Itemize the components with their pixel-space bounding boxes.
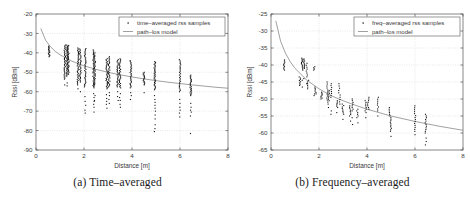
- sample-point: [85, 58, 86, 59]
- sample-point: [108, 73, 109, 74]
- sample-point: [326, 98, 327, 99]
- y-tick-label: -60: [259, 129, 269, 136]
- sample-point: [66, 75, 67, 76]
- sample-point: [65, 56, 66, 57]
- sample-point-outlier: [84, 96, 85, 97]
- sample-point: [119, 70, 120, 71]
- sample-point-outlier: [302, 87, 303, 88]
- sample-point: [78, 78, 79, 79]
- sample-point: [120, 85, 121, 86]
- y-axis-title: Rssi [dBm]: [246, 66, 254, 97]
- sample-point: [391, 128, 392, 129]
- sample-point-outlier: [425, 144, 426, 145]
- sample-point: [307, 74, 308, 75]
- sample-point: [64, 76, 65, 77]
- sample-point: [377, 108, 378, 109]
- sample-point: [66, 73, 67, 74]
- sample-point: [342, 108, 343, 109]
- sample-point: [106, 79, 107, 80]
- sample-point: [306, 67, 307, 68]
- sample-point: [85, 83, 86, 84]
- sample-point: [106, 60, 107, 61]
- sample-point: [68, 69, 69, 70]
- y-tick-label: -80: [24, 127, 34, 134]
- sample-point: [131, 86, 132, 87]
- sample-point: [377, 99, 378, 100]
- sample-point: [301, 64, 302, 65]
- sample-point: [80, 70, 81, 71]
- sample-point: [81, 72, 82, 73]
- x-tick-label: 0: [34, 152, 38, 159]
- sample-point: [117, 86, 118, 87]
- sample-point: [107, 72, 108, 73]
- sample-point: [315, 89, 316, 90]
- sample-point: [80, 58, 81, 59]
- legend-marker-dot: [363, 22, 364, 23]
- sample-point: [67, 63, 68, 64]
- sample-point: [79, 75, 80, 76]
- sample-point-outlier: [414, 134, 415, 135]
- sample-point: [64, 75, 65, 76]
- sample-point: [352, 98, 353, 99]
- sample-point: [64, 72, 65, 73]
- sample-point: [389, 115, 390, 116]
- sample-point-outlier: [85, 101, 86, 102]
- sample-point: [92, 72, 93, 73]
- sample-point: [67, 49, 68, 50]
- sample-point: [66, 72, 67, 73]
- sample-point: [64, 70, 65, 71]
- sample-point: [118, 59, 119, 60]
- sample-point: [93, 69, 94, 70]
- sample-point-outlier: [77, 88, 78, 89]
- sample-point: [304, 60, 305, 61]
- sample-point: [66, 58, 67, 59]
- sample-point: [79, 59, 80, 60]
- y-tick-label: -30: [24, 30, 34, 37]
- sample-point: [64, 53, 65, 54]
- sample-point: [302, 61, 303, 62]
- sample-point: [415, 115, 416, 116]
- x-tick-label: 6: [178, 152, 182, 159]
- sample-point: [106, 62, 107, 63]
- sample-point: [352, 109, 353, 110]
- sample-point: [67, 60, 68, 61]
- sample-point: [342, 109, 343, 110]
- x-axis-title: Distance [m]: [349, 162, 385, 170]
- sample-point: [337, 103, 338, 104]
- sample-point: [338, 83, 339, 84]
- sample-point-outlier: [155, 111, 156, 112]
- x-tick-label: 4: [365, 152, 369, 159]
- sample-point: [109, 77, 110, 78]
- sample-point: [155, 67, 156, 68]
- sample-point: [306, 63, 307, 64]
- sample-point: [95, 78, 96, 79]
- sample-point: [107, 63, 108, 64]
- sample-point: [93, 83, 94, 84]
- sample-point: [93, 64, 94, 65]
- sample-point: [107, 85, 108, 86]
- sample-point: [180, 81, 181, 82]
- sample-point: [131, 74, 132, 75]
- sample-point: [365, 105, 366, 106]
- x-tick-label: 4: [130, 152, 134, 159]
- sample-point: [119, 62, 120, 63]
- sample-point: [65, 47, 66, 48]
- sample-point-outlier: [331, 110, 332, 111]
- panel-b: -25-30-35-40-45-50-55-60-6502468Distance…: [235, 0, 470, 203]
- sample-point: [119, 81, 120, 82]
- sample-point: [144, 84, 145, 85]
- sample-point: [108, 65, 109, 66]
- sample-point: [80, 62, 81, 63]
- sample-point: [117, 61, 118, 62]
- sample-point: [425, 131, 426, 132]
- sample-point: [80, 56, 81, 57]
- sample-point: [179, 72, 180, 73]
- sample-point: [390, 125, 391, 126]
- sample-point: [130, 62, 131, 63]
- sample-point: [64, 68, 65, 69]
- sample-point: [329, 100, 330, 101]
- sample-point: [326, 87, 327, 88]
- sample-point: [68, 70, 69, 71]
- sample-point-outlier: [390, 136, 391, 137]
- sample-point-outlier: [155, 102, 156, 103]
